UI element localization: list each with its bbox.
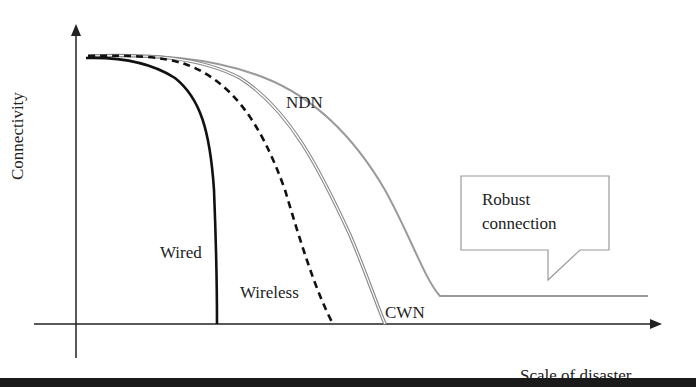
callout-line-2: connection <box>482 212 557 236</box>
wired-curve <box>86 58 217 324</box>
wireless-label: Wireless <box>240 283 299 303</box>
callout-line-1: Robust <box>482 188 557 212</box>
callout-text: Robust connection <box>482 188 557 236</box>
cwn-curve-inner <box>88 55 385 324</box>
wired-label: Wired <box>160 243 202 263</box>
connectivity-plot <box>0 0 696 387</box>
diagram: Connectivity Scale of disaster Wired Wir… <box>0 0 696 387</box>
cwn-curve <box>88 55 385 324</box>
y-axis-label: Connectivity <box>8 92 28 180</box>
bottom-border <box>0 378 696 387</box>
cwn-label: CWN <box>385 303 425 323</box>
ndn-label: NDN <box>286 93 323 113</box>
